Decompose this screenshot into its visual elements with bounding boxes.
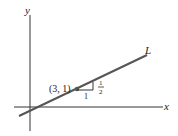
- point-label: (3, 1): [49, 83, 71, 95]
- coordinate-diagram: y x L (3, 1) 1 1 2: [0, 0, 178, 136]
- rise-numerator: 1: [99, 79, 103, 87]
- x-axis-label: x: [163, 100, 169, 112]
- line-l-label: L: [144, 44, 151, 56]
- rise-denominator: 2: [99, 88, 103, 96]
- y-axis-label: y: [24, 4, 30, 16]
- point-3-1: [75, 87, 79, 91]
- run-label: 1: [84, 92, 88, 101]
